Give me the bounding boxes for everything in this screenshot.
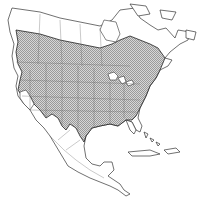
caribbean-islands [128, 132, 180, 156]
range-map [0, 0, 201, 202]
species-range [16, 30, 165, 142]
